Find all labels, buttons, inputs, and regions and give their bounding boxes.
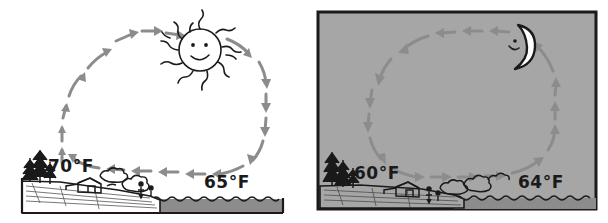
arrow-bottom-left-4 <box>131 166 151 176</box>
day-scene-graphic <box>0 0 304 223</box>
arrow-bottom-left-3 <box>158 167 178 177</box>
temperature-label-land-day: 70°F <box>48 156 94 176</box>
temperature-label-water-day: 65°F <box>204 172 250 192</box>
arrow-up-left-2 <box>58 125 66 141</box>
arrow-down-right-1 <box>259 62 271 89</box>
arrow-upleft-curve-2 <box>88 48 112 68</box>
temperature-label-water-night: 64°F <box>518 172 564 192</box>
panel-daytime-sea-breeze: 70°F 65°F <box>0 0 304 223</box>
arrow-down-right-2 <box>261 94 271 113</box>
arrow-down-right-4 <box>247 141 263 165</box>
figure-root: 70°F 65°F <box>0 0 608 223</box>
arrow-bottom-left-2 <box>185 169 205 179</box>
arrow-upleft-curve-1 <box>69 72 86 96</box>
arrow-top-right-1 <box>116 29 139 41</box>
water-body-day <box>152 199 283 213</box>
water-body-night <box>454 198 596 209</box>
arrow-top-right-2 <box>142 26 163 36</box>
sun-icon <box>161 10 241 90</box>
arrow-up-left-3 <box>61 103 70 118</box>
temperature-label-land-night: 60°F <box>354 163 400 183</box>
arrow-down-right-3 <box>260 118 270 137</box>
panel-nighttime-land-breeze: 60°F 64°F <box>312 0 608 223</box>
